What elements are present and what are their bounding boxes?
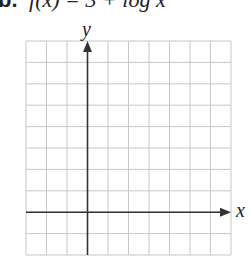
y-axis-label: y [82, 18, 91, 41]
y-axis-arrow-icon [83, 41, 92, 52]
coordinate-grid [0, 0, 251, 269]
x-axis-label: x [236, 199, 245, 222]
x-axis-arrow-icon [220, 208, 231, 217]
